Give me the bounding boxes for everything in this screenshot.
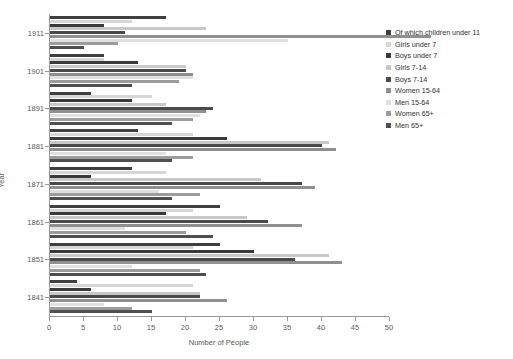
x-tick-mark [219, 317, 220, 321]
bar [50, 254, 329, 257]
bar [50, 31, 125, 34]
legend-item[interactable]: Boys 7-14 [386, 73, 511, 85]
legend-label: Of which children under 11 [395, 29, 480, 36]
bar [50, 193, 200, 196]
legend-label: Women 15-64 [395, 87, 440, 94]
bar [50, 227, 125, 230]
bar [50, 261, 342, 264]
y-tick-label: 1901 [27, 66, 44, 75]
legend-label: Women 65+ [395, 110, 434, 117]
x-tick-label: 10 [113, 323, 121, 332]
y-tick-mark [45, 259, 49, 260]
y-tick-label: 1881 [27, 142, 44, 151]
legend-item[interactable]: Girls under 7 [386, 39, 511, 51]
bar [50, 16, 166, 19]
bar [50, 288, 91, 291]
bar [50, 99, 132, 102]
x-axis-title: Number of People [49, 338, 389, 347]
legend-label: Boys under 7 [395, 52, 437, 59]
y-tick-label: 1861 [27, 217, 44, 226]
y-tick-mark [45, 184, 49, 185]
bar [50, 114, 200, 117]
bar [50, 103, 166, 106]
legend-swatch-icon [386, 100, 391, 105]
bar [50, 178, 261, 181]
bar [50, 129, 138, 132]
bar [50, 292, 200, 295]
legend-label: Girls 7-14 [395, 64, 426, 71]
bar [50, 156, 193, 159]
bar [50, 235, 213, 238]
y-axis-ticks: 18411851186118711881189119011911 [0, 14, 44, 316]
bar [50, 54, 104, 57]
legend-item[interactable]: Girls 7-14 [386, 62, 511, 74]
bar [50, 92, 91, 95]
bar [50, 182, 302, 185]
legend-label: Girls under 7 [395, 41, 436, 48]
bar [50, 80, 179, 83]
bar [50, 175, 91, 178]
bar [50, 159, 172, 162]
y-tick-label: 1871 [27, 179, 44, 188]
legend-label: Men 65+ [395, 122, 423, 129]
legend-item[interactable]: Men 15-64 [386, 97, 511, 109]
bar [50, 216, 247, 219]
bar [50, 148, 336, 151]
x-tick-mark [49, 317, 50, 321]
x-tick-mark [355, 317, 356, 321]
bar [50, 20, 132, 23]
x-tick-mark [321, 317, 322, 321]
bar [50, 73, 193, 76]
y-tick-mark [45, 71, 49, 72]
bar [50, 95, 152, 98]
bar [50, 144, 322, 147]
bar [50, 58, 104, 61]
y-tick-mark [45, 108, 49, 109]
bar [50, 42, 118, 45]
bar [50, 295, 200, 298]
x-tick-label: 50 [385, 323, 393, 332]
x-tick-mark [389, 317, 390, 321]
bar [50, 46, 84, 49]
y-axis-title: Year [0, 173, 6, 188]
legend-item[interactable]: Men 65+ [386, 120, 511, 132]
x-tick-label: 0 [47, 323, 51, 332]
y-tick-label: 1911 [28, 28, 44, 37]
legend-swatch-icon [386, 77, 391, 82]
bar [50, 141, 329, 144]
bar [50, 284, 193, 287]
legend-label: Men 15-64 [395, 99, 429, 106]
y-tick-label: 1891 [27, 104, 44, 113]
legend-item[interactable]: Women 65+ [386, 108, 511, 120]
x-tick-mark [117, 317, 118, 321]
bar-chart: 18411851186118711881189119011911 Year 05… [0, 0, 513, 359]
legend-item[interactable]: Of which children under 11 [386, 27, 511, 39]
bar [50, 186, 315, 189]
bar [50, 280, 77, 283]
bar [50, 133, 193, 136]
x-tick-mark [151, 317, 152, 321]
bar [50, 107, 213, 110]
x-tick-label: 45 [351, 323, 359, 332]
bar [50, 243, 220, 246]
legend-item[interactable]: Boys under 7 [386, 50, 511, 62]
bar [50, 231, 186, 234]
legend-item[interactable]: Women 15-64 [386, 85, 511, 97]
bar [50, 209, 193, 212]
bar [50, 205, 220, 208]
bar [50, 197, 172, 200]
bar [50, 69, 186, 72]
x-tick-label: 25 [215, 323, 223, 332]
legend-swatch-icon [386, 123, 391, 128]
x-tick-mark [83, 317, 84, 321]
bar [50, 220, 268, 223]
x-tick-label: 30 [249, 323, 257, 332]
bar [50, 258, 295, 261]
y-tick-mark [45, 146, 49, 147]
bar [50, 76, 193, 79]
legend-label: Boys 7-14 [395, 76, 427, 83]
bar [50, 171, 166, 174]
x-tick-label: 40 [317, 323, 325, 332]
legend-swatch-icon [386, 30, 391, 35]
legend-swatch-icon [386, 42, 391, 47]
